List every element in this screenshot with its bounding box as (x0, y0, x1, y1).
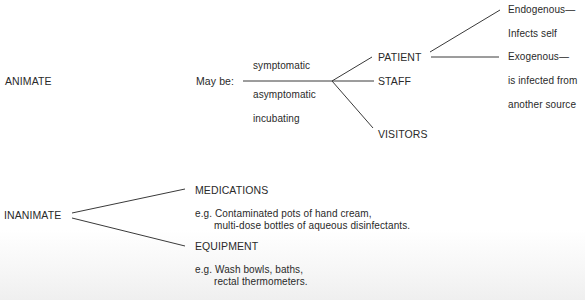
branch-medications (72, 189, 185, 213)
medications-example-2: multi-dose bottles of aqueous disinfecta… (214, 220, 410, 232)
branch-patient (332, 57, 372, 81)
exogenous-desc-1: is infected from (508, 75, 577, 87)
state-asymptomatic: asymptomatic (253, 89, 316, 101)
group-staff: STAFF (378, 75, 411, 87)
group-visitors: VISITORS (378, 128, 428, 140)
exogenous-label: Exogenous— (508, 51, 569, 63)
connector-lines (0, 0, 585, 300)
exogenous-desc-2: another source (508, 99, 576, 111)
group-patient: PATIENT (378, 51, 421, 63)
endogenous-desc: Infects self (508, 28, 557, 40)
state-symptomatic: symptomatic (253, 60, 310, 72)
inanimate-label: INANIMATE (4, 209, 61, 221)
may-be-label: May be: (196, 75, 234, 87)
branch-visitors (332, 81, 373, 128)
medications-example-1: e.g. Contaminated pots of hand cream, (195, 208, 372, 220)
category-medications: MEDICATIONS (195, 184, 268, 196)
branch-equipment (72, 218, 185, 246)
category-equipment: EQUIPMENT (195, 240, 258, 252)
endogenous-label: Endogenous— (508, 4, 575, 16)
state-incubating: incubating (253, 113, 300, 125)
branch-endogenous (430, 10, 500, 52)
animate-label: ANIMATE (5, 75, 52, 87)
equipment-example-1: e.g. Wash bowls, baths, (195, 264, 303, 276)
equipment-example-2: rectal thermometers. (214, 276, 308, 288)
